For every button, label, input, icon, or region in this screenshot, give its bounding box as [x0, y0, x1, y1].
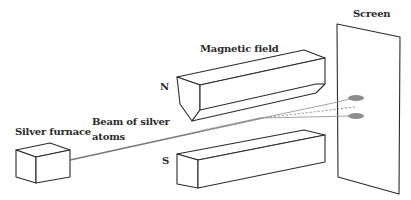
magnet-south-end-face: [177, 154, 198, 188]
screen-label: Screen: [353, 8, 390, 20]
furnace-label: Silver furnace: [15, 126, 91, 138]
south-pole-label: S: [162, 155, 169, 167]
beam-label-line2: atoms: [92, 131, 125, 143]
diagram-canvas: [0, 0, 411, 200]
north-pole-label: N: [160, 81, 169, 93]
stern-gerlach-diagram: Magnetic field Screen N S Silver furnace…: [0, 0, 411, 200]
deposit-spot-lower: [348, 113, 364, 119]
beam-label-line1: Beam of silver: [92, 116, 170, 128]
magnetic-field-label: Magnetic field: [200, 43, 279, 55]
magnet-south: [177, 130, 325, 188]
screen: [337, 24, 400, 194]
magnet-north: [177, 50, 325, 121]
deposit-spot-upper: [348, 95, 364, 101]
silver-furnace: [16, 143, 70, 183]
screen-panel: [337, 24, 400, 194]
